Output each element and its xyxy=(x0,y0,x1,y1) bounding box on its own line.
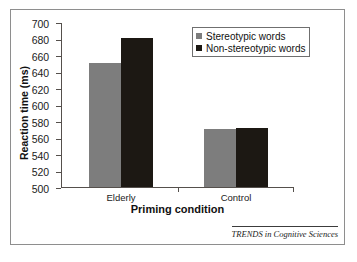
y-axis-tick: 500 xyxy=(56,188,61,189)
y-axis-tick-label: 600 xyxy=(32,100,49,112)
x-axis-title: Priming condition xyxy=(61,203,294,215)
y-axis-tick-label: 680 xyxy=(32,34,49,46)
attribution-text: TRENDS in Cognitive Sciences xyxy=(232,229,338,239)
y-axis-title-label: Reaction time (ms) xyxy=(18,66,30,160)
x-axis-category-label: Control xyxy=(221,192,252,203)
x-axis-tick xyxy=(178,188,179,192)
y-axis-title: Reaction time (ms) xyxy=(17,38,31,188)
legend-item-label: Non-stereotypic words xyxy=(206,43,305,54)
legend-swatch-icon xyxy=(196,45,202,51)
legend-item: Non-stereotypic words xyxy=(196,42,305,54)
y-axis-tick: 620 xyxy=(56,89,61,90)
y-axis-tick: 540 xyxy=(56,155,61,156)
figure-frame: Reaction time (ms) 500520540560580600620… xyxy=(10,9,345,245)
attribution: TRENDS in Cognitive Sciences xyxy=(232,226,338,239)
y-axis-tick-label: 660 xyxy=(32,51,49,63)
bar xyxy=(204,129,236,187)
y-axis-tick-label: 620 xyxy=(32,84,49,96)
x-axis-tick xyxy=(293,188,294,192)
y-axis-tick: 580 xyxy=(56,122,61,123)
y-axis-tick-label: 500 xyxy=(32,183,49,195)
y-axis-tick-label: 580 xyxy=(32,117,49,129)
x-axis-category-label: Elderly xyxy=(106,192,135,203)
bar xyxy=(236,128,268,187)
bar xyxy=(89,63,121,187)
y-axis-tick: 560 xyxy=(56,139,61,140)
y-axis-tick-label: 560 xyxy=(32,133,49,145)
y-axis-tick: 680 xyxy=(56,40,61,41)
legend-item-label: Stereotypic words xyxy=(206,31,285,42)
y-axis-tick: 700 xyxy=(56,23,61,24)
bar xyxy=(121,38,153,187)
y-axis-tick: 640 xyxy=(56,73,61,74)
y-axis-tick-label: 700 xyxy=(32,18,49,30)
y-axis-tick-label: 540 xyxy=(32,150,49,162)
y-axis-tick: 660 xyxy=(56,56,61,57)
y-axis-tick-label: 520 xyxy=(32,166,49,178)
legend-item: Stereotypic words xyxy=(196,30,305,42)
attribution-rule xyxy=(232,226,338,227)
legend-swatch-icon xyxy=(196,33,202,39)
chart-legend: Stereotypic wordsNon-stereotypic words xyxy=(192,27,310,57)
y-axis-tick: 600 xyxy=(56,106,61,107)
y-axis-tick: 520 xyxy=(56,172,61,173)
y-axis-line xyxy=(61,23,62,188)
y-axis-tick-label: 640 xyxy=(32,67,49,79)
